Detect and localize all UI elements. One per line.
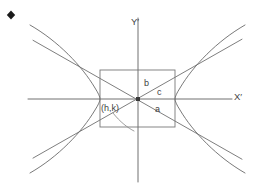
hyperbola-figure: Y′ X′ b c a (h,k) [0, 0, 253, 192]
segment-label-a: a [155, 105, 160, 114]
center-label-leader-line [113, 113, 134, 131]
y-prime-axis-label: Y′ [131, 17, 139, 27]
x-prime-axis-label: X′ [234, 92, 242, 102]
center-point-dot [136, 97, 140, 101]
segment-label-c: c [157, 88, 162, 97]
bullet-diamond-icon [7, 11, 15, 20]
figure-canvas [0, 0, 253, 192]
center-point-label: (h,k) [101, 104, 119, 113]
segment-label-b: b [144, 79, 149, 88]
